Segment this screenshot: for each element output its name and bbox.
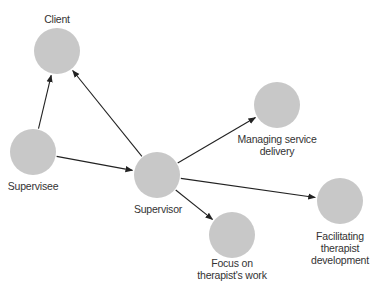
node-label-focus: Focus ontherapist's work xyxy=(197,257,266,281)
edge-supervisee-to-client xyxy=(39,75,52,128)
node-label-client: Client xyxy=(44,13,70,25)
node-label-facilitating: Facilitatingtherapistdevelopment xyxy=(311,230,369,266)
node-facilitating xyxy=(317,178,363,224)
node-label-line: therapist xyxy=(311,242,369,254)
node-client xyxy=(34,28,80,74)
node-label-line: Client xyxy=(44,13,70,25)
node-label-line: therapist's work xyxy=(197,269,266,281)
node-focus xyxy=(209,212,255,258)
edge-supervisee-to-supervisor xyxy=(57,156,133,170)
node-label-line: Focus on xyxy=(197,257,266,269)
node-supervisor xyxy=(134,152,180,198)
node-label-line: Facilitating xyxy=(311,230,369,242)
node-label-managing: Managing servicedelivery xyxy=(237,133,316,157)
node-label-supervisee: Supervisee xyxy=(8,180,59,192)
node-label-line: delivery xyxy=(237,145,316,157)
edge-supervisor-to-facilitating xyxy=(181,178,315,197)
node-managing xyxy=(254,82,300,128)
node-label-supervisor: Supervisor xyxy=(134,203,182,215)
node-label-line: Managing service xyxy=(237,133,316,145)
node-label-line: Supervisee xyxy=(8,180,59,192)
node-label-line: Supervisor xyxy=(134,203,182,215)
node-label-line: development xyxy=(311,254,369,266)
node-supervisee xyxy=(10,129,56,175)
edge-supervisor-to-client xyxy=(73,71,142,157)
